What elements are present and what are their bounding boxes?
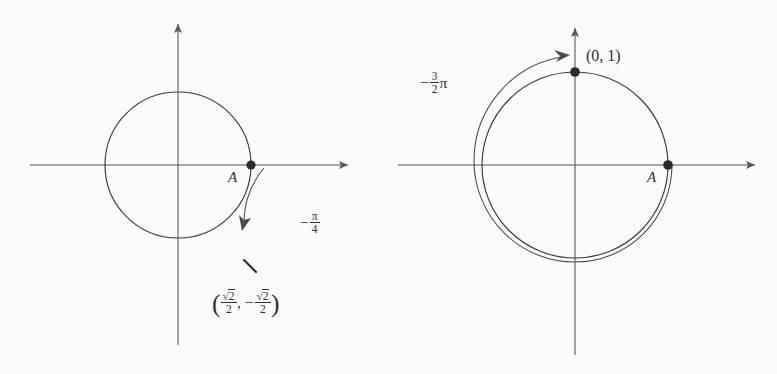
right-terminal-point-label: (0, 1) <box>586 48 621 64</box>
coord-y-fraction: √2 2 <box>255 291 272 316</box>
left-terminal-tick-marker <box>244 260 256 272</box>
right-point-a-label: A <box>647 170 656 185</box>
right-angle-label: − 3 2 π <box>420 72 447 97</box>
figure-root: A − π 4 ( √2 2 , − √2 2 ) A (0, 1) − 3 2… <box>0 0 777 374</box>
right-terminal-point-marker <box>570 67 580 77</box>
coord-y-denominator: 2 <box>255 302 272 315</box>
left-coordinate-label: ( √2 2 , − √2 2 ) <box>212 292 280 317</box>
right-sweep-arrowhead <box>554 50 570 62</box>
right-angle-sweep-arc <box>474 57 672 262</box>
coord-x-denominator: 2 <box>221 302 238 315</box>
coord-comma: , <box>237 294 241 311</box>
coord-y-radicand: 2 <box>262 289 269 302</box>
coord-x-radicand: 2 <box>228 289 235 302</box>
right-angle-denominator: 2 <box>430 82 440 95</box>
right-panel-group <box>398 28 755 355</box>
coord-x-numerator: √2 <box>221 291 238 303</box>
left-angle-numerator: π <box>310 211 320 223</box>
left-point-a-label: A <box>228 170 237 185</box>
right-point-a-marker <box>663 160 673 170</box>
coord-x-fraction: √2 2 <box>221 291 238 316</box>
left-angle-label: − π 4 <box>300 212 320 237</box>
coord-y-numerator: √2 <box>255 291 272 303</box>
left-sweep-arrowhead <box>239 215 251 231</box>
left-panel-group <box>30 24 348 345</box>
right-angle-fraction: 3 2 <box>430 71 440 96</box>
right-angle-pi-symbol: π <box>439 74 447 91</box>
right-angle-numerator: 3 <box>430 71 440 83</box>
left-angle-minus-sign: − <box>300 214 309 231</box>
coord-minus-sign: − <box>245 294 254 311</box>
left-angle-sweep-arc <box>244 168 264 224</box>
coord-open-paren: ( <box>212 289 221 318</box>
coord-close-paren: ) <box>271 289 280 318</box>
diagram-canvas <box>0 0 777 374</box>
left-point-a-marker <box>246 160 255 169</box>
right-angle-minus-sign: − <box>420 74 429 91</box>
left-angle-denominator: 4 <box>310 222 320 235</box>
left-angle-fraction: π 4 <box>310 211 320 236</box>
